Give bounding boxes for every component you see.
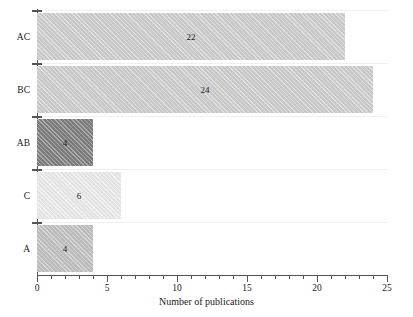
bar-value-label: 4 (63, 244, 68, 254)
x-axis-tick-label: 10 (172, 283, 182, 293)
y-axis-label-ac: AC (0, 32, 30, 42)
x-axis-tick-label: 5 (105, 283, 110, 293)
x-tick-major (387, 276, 388, 282)
x-tick-minor (373, 276, 374, 279)
x-axis-title: Number of publications (0, 296, 413, 307)
bar-value-label: 22 (187, 32, 196, 42)
y-tick (32, 222, 42, 224)
bar-value-label: 24 (201, 85, 210, 95)
bar-band: 4 (37, 222, 394, 275)
y-tick (32, 10, 42, 12)
y-axis-label-bc: BC (0, 85, 30, 95)
x-axis-line (37, 275, 388, 276)
x-tick-major (37, 276, 38, 282)
bar-band: 4 (37, 116, 394, 169)
bar-band: 6 (37, 169, 394, 222)
x-tick-major (247, 276, 248, 282)
x-tick-minor (331, 276, 332, 279)
bar-chart: 4642422 ACABBCAC 0510152025 Number of pu… (0, 0, 413, 317)
x-tick-minor (149, 276, 150, 279)
x-tick-minor (275, 276, 276, 279)
x-tick-minor (163, 276, 164, 279)
x-tick-minor (93, 276, 94, 279)
y-axis-label-c: C (0, 191, 30, 201)
x-tick-minor (289, 276, 290, 279)
x-tick-minor (205, 276, 206, 279)
y-axis-label-ab: AB (0, 138, 30, 148)
x-axis-tick-label: 20 (312, 283, 322, 293)
x-tick-minor (233, 276, 234, 279)
bar-a[interactable]: 4 (37, 225, 93, 272)
x-tick-minor (345, 276, 346, 279)
bar-ac[interactable]: 22 (37, 13, 345, 60)
bar-value-label: 4 (63, 138, 68, 148)
y-tick (32, 63, 42, 65)
x-tick-major (177, 276, 178, 282)
x-tick-minor (219, 276, 220, 279)
x-tick-minor (303, 276, 304, 279)
x-axis-tick-label: 25 (382, 283, 392, 293)
y-tick (32, 169, 42, 171)
x-axis-tick-label: 15 (242, 283, 252, 293)
bar-band: 24 (37, 63, 394, 116)
x-tick-minor (121, 276, 122, 279)
x-tick-major (107, 276, 108, 282)
x-tick-minor (261, 276, 262, 279)
x-tick-minor (135, 276, 136, 279)
x-tick-minor (79, 276, 80, 279)
bar-c[interactable]: 6 (37, 172, 121, 219)
bar-ab[interactable]: 4 (37, 119, 93, 166)
x-tick-minor (65, 276, 66, 279)
x-tick-major (317, 276, 318, 282)
x-axis-tick-label: 0 (35, 283, 40, 293)
x-tick-minor (359, 276, 360, 279)
x-tick-minor (51, 276, 52, 279)
bar-value-label: 6 (77, 191, 82, 201)
bar-bc[interactable]: 24 (37, 66, 373, 113)
y-axis-label-a: A (0, 244, 30, 254)
x-tick-minor (191, 276, 192, 279)
bar-band: 22 (37, 10, 394, 63)
y-tick (32, 116, 42, 118)
